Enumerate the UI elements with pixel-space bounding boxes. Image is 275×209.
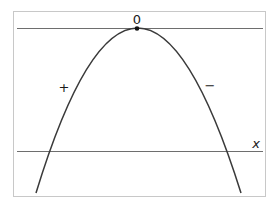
frame-border [14, 12, 266, 197]
right-sign-label: − [205, 78, 216, 93]
parabola-curve [36, 28, 241, 193]
diagram-canvas: 0 + − x [0, 0, 275, 209]
left-sign-label: + [59, 80, 70, 95]
vertex-label: 0 [133, 12, 141, 27]
x-axis-label: x [251, 136, 260, 151]
